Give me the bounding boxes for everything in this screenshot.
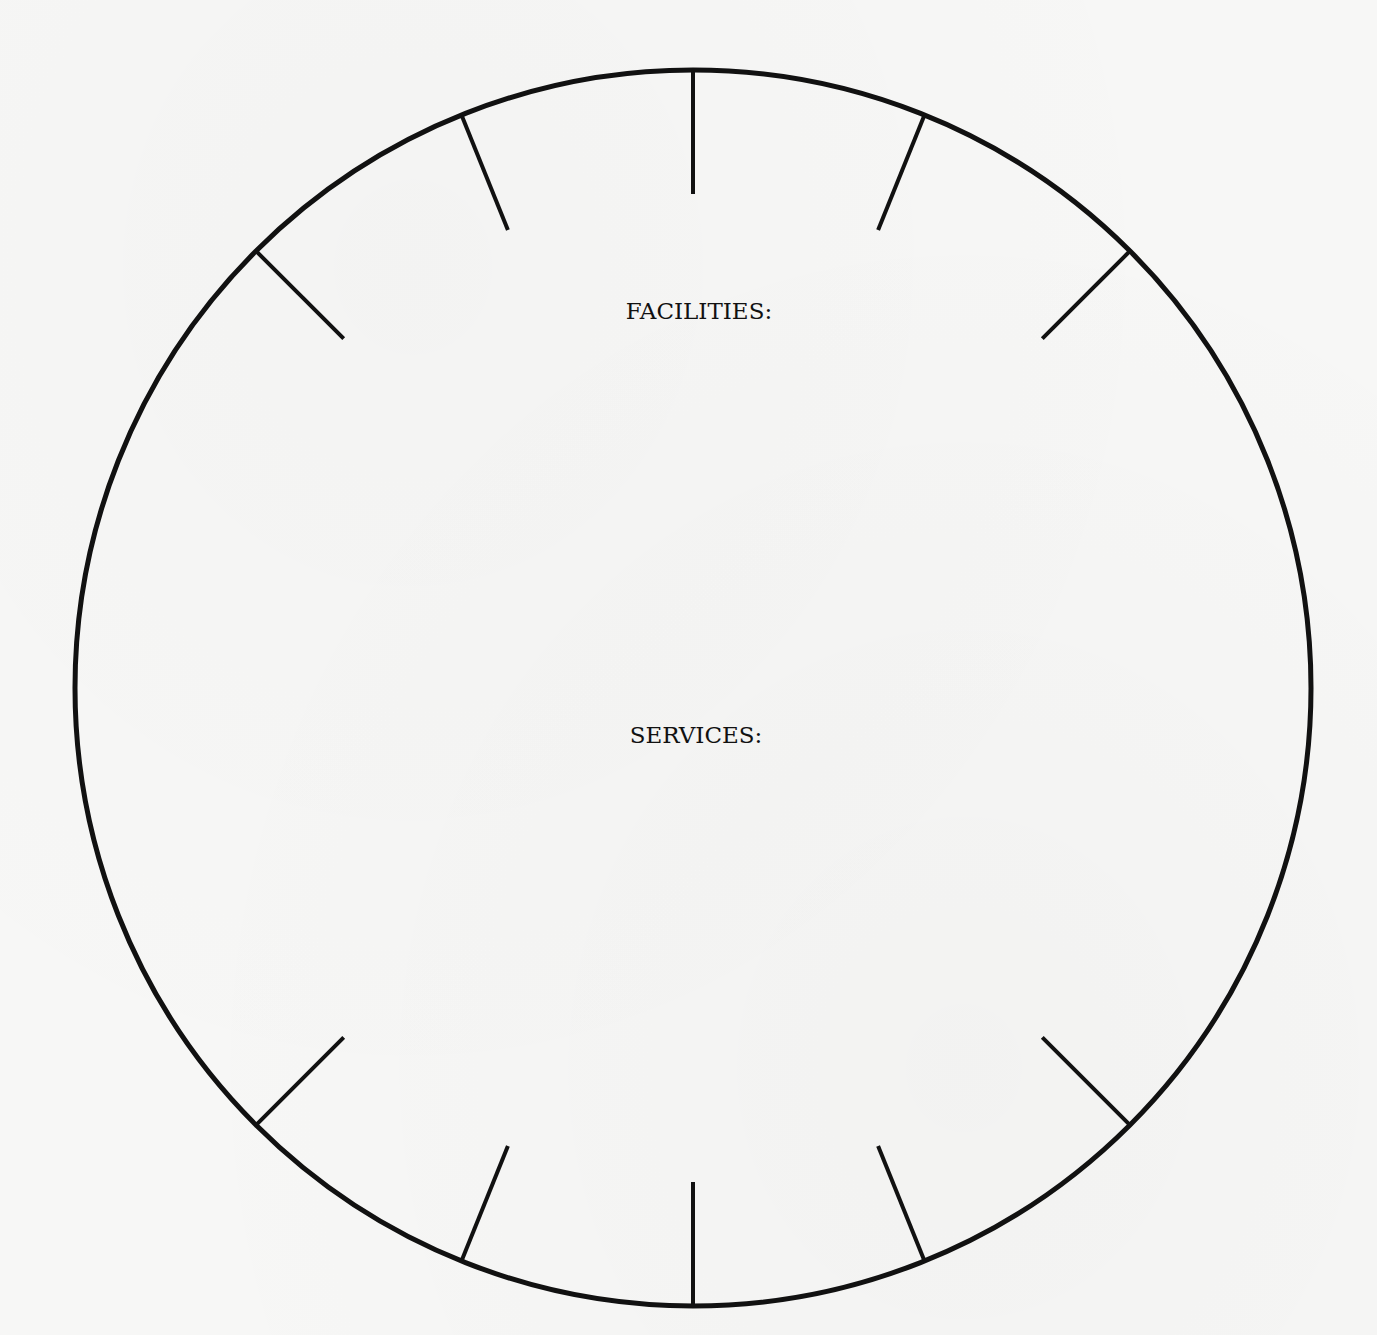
facilities-heading: FACILITIES: bbox=[626, 298, 772, 324]
tick-mark bbox=[1042, 1037, 1129, 1124]
services-heading: SERVICES: bbox=[630, 722, 763, 748]
tick-marks bbox=[257, 71, 1130, 1305]
tick-mark bbox=[878, 1146, 924, 1260]
tick-mark bbox=[462, 1146, 508, 1260]
wheel-diagram bbox=[0, 0, 1377, 1335]
tick-mark bbox=[1042, 252, 1129, 339]
tick-mark bbox=[878, 116, 924, 230]
tick-mark bbox=[257, 1037, 344, 1124]
tick-mark bbox=[257, 252, 344, 339]
tick-mark bbox=[462, 116, 508, 230]
